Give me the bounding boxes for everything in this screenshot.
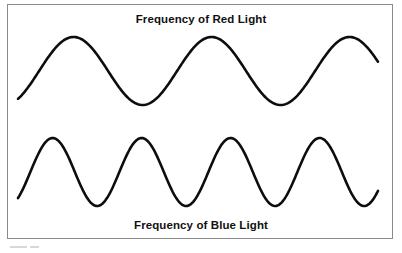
scan-artifact-mark bbox=[10, 246, 27, 248]
figure-border bbox=[7, 4, 393, 239]
top-caption-red-light: Frequency of Red Light bbox=[0, 13, 402, 25]
scan-artifact-mark-secondary bbox=[30, 246, 39, 248]
light-frequency-figure: Frequency of Red Light Frequency of Blue… bbox=[0, 0, 402, 253]
bottom-caption-blue-light: Frequency of Blue Light bbox=[0, 219, 402, 231]
